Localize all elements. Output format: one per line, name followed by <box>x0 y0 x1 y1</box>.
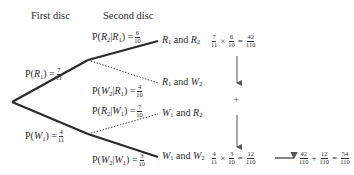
outcome-r1-w2: R1 and W2 <box>162 77 202 87</box>
prob-w2-given-r1: P(W2|R1) = 410 <box>92 84 144 99</box>
prob-w2-given-w1: P(W2|W1) = 310 <box>92 153 146 168</box>
prob-r2-given-w1: P(R2|W1) = 710 <box>92 104 144 119</box>
outcome-r1-r2: R1 and R2 <box>162 35 200 45</box>
calc-total: 42110 + 12110 = 54110 <box>298 151 351 166</box>
header-first-disc: First disc <box>31 10 70 21</box>
plus-sign: + <box>233 93 239 105</box>
prob-w1-label: P(W1) = 411 <box>25 129 65 144</box>
tree-branches <box>0 0 354 175</box>
calc-top: 711 × 610 = 42110 <box>210 34 256 49</box>
branch-r1-w2 <box>88 60 158 83</box>
header-second-disc: Second disc <box>103 10 153 21</box>
prob-r2-given-r1: P(R2|R1) = 610 <box>92 30 142 45</box>
prob-r1-label: P(R1) = 711 <box>25 67 63 82</box>
outcome-w1-w2: W1 and W2 <box>162 151 205 161</box>
outcome-w1-r2: W1 and R2 <box>162 108 202 118</box>
calc-bottom: 411 × 310 = 12110 <box>210 151 256 166</box>
